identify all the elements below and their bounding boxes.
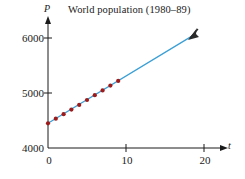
data-point (62, 112, 66, 116)
y-axis-tick-label-6000: 6000 (10, 33, 44, 44)
data-point (116, 79, 120, 83)
x-axis-tick-label-20: 20 (195, 155, 215, 166)
x-axis-label: t (228, 141, 231, 151)
data-point (46, 121, 50, 125)
y-axis-tick-label-4000: 4000 (10, 143, 44, 154)
x-axis (48, 145, 228, 151)
data-point (85, 98, 89, 102)
data-point (77, 103, 81, 107)
y-axis (45, 16, 51, 148)
y-axis-label: P (44, 4, 50, 14)
data-point (108, 84, 112, 88)
chart-title: World population (1980–89) (68, 5, 191, 16)
y-axis-tick-label-5000: 5000 (10, 88, 44, 99)
data-point (69, 108, 73, 112)
data-point (101, 88, 105, 92)
endpoint-arrow-marker (188, 28, 199, 40)
chart-figure: World population (1980–89) 6000 5000 400… (0, 0, 245, 179)
x-axis-tick-label-0: 0 (39, 155, 59, 166)
data-point (54, 117, 58, 121)
x-axis-tick-label-10: 10 (117, 155, 137, 166)
data-point (93, 93, 97, 97)
